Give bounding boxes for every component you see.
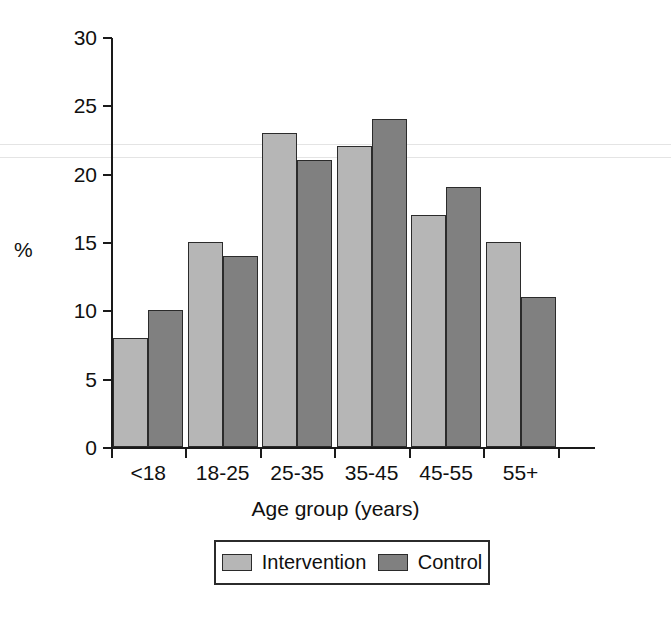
bar-intervention-25-35 [262, 133, 297, 447]
bar-control-45-55 [446, 187, 481, 447]
bar-intervention-35-45 [337, 146, 372, 447]
bar-intervention-55+ [486, 242, 521, 447]
x-axis-tick [111, 447, 113, 458]
bar-control-55+ [521, 297, 556, 447]
x-axis-tick [334, 447, 336, 458]
plot-area [111, 38, 595, 448]
chart-figure: % 051015202530 <1818-2525-3535-4545-5555… [0, 0, 671, 620]
x-axis-tick-label: 55+ [471, 462, 571, 484]
x-axis-tick [483, 447, 485, 458]
y-axis-tick-label: 5 [51, 369, 97, 390]
y-axis-tick [103, 242, 112, 244]
bar-intervention-45-55 [411, 215, 446, 447]
bar-intervention-18-25 [188, 242, 223, 447]
legend-entry-control: Control [378, 551, 482, 574]
y-axis-tick-label: 10 [51, 300, 97, 321]
y-axis-tick-label: 15 [51, 232, 97, 253]
x-axis-tick [260, 447, 262, 458]
bar-control-<18 [148, 310, 183, 447]
legend-label: Control [418, 551, 482, 574]
x-axis-tick [185, 447, 187, 458]
legend-label: Intervention [262, 551, 367, 574]
y-axis-tick-labels: 051015202530 [51, 38, 97, 448]
y-axis-tick-label: 0 [51, 437, 97, 458]
y-axis-tick-label: 30 [51, 27, 97, 48]
y-axis-tick [103, 105, 112, 107]
bar-control-25-35 [297, 160, 332, 447]
y-axis-tick [103, 37, 112, 39]
y-axis-tick [103, 310, 112, 312]
x-axis-tick [409, 447, 411, 458]
y-axis-tick [103, 379, 112, 381]
y-axis-title: % [14, 238, 33, 262]
x-axis-title: Age group (years) [0, 497, 671, 521]
y-axis-tick-label: 25 [51, 95, 97, 116]
y-axis-tick-label: 20 [51, 164, 97, 185]
legend: InterventionControl [214, 540, 490, 585]
bar-intervention-<18 [113, 338, 148, 447]
bar-control-18-25 [223, 256, 258, 447]
legend-entry-intervention: Intervention [222, 551, 367, 574]
y-axis-tick [103, 174, 112, 176]
legend-swatch-icon [378, 554, 408, 571]
bar-control-35-45 [372, 119, 407, 447]
x-axis-tick [558, 447, 560, 458]
legend-swatch-icon [222, 554, 252, 571]
x-axis-line [111, 447, 595, 449]
